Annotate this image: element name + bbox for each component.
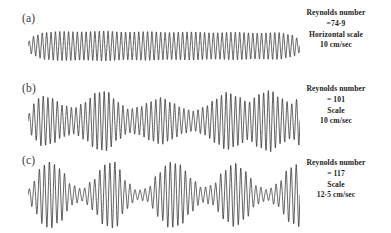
panel-b: (b) Reynolds number = 101 Scale 10 cm/se… (0, 76, 391, 154)
scale-caption-b: Scale (288, 106, 384, 117)
scale-value-c: 12·5 cm/sec (288, 190, 384, 201)
waveform-trace-a (28, 26, 300, 66)
reynolds-value-c: = 117 (288, 169, 384, 180)
panel-a: (a) Reynolds number =74·9 Horizontal sca… (0, 0, 391, 78)
reynolds-caption-b: Reynolds number (288, 84, 384, 95)
waveform-trace-c (28, 162, 300, 228)
reynolds-caption-c: Reynolds number (288, 158, 384, 169)
annotation-a: Reynolds number =74·9 Horizontal scale 1… (288, 8, 384, 51)
annotation-c: Reynolds number = 117 Scale 12·5 cm/sec (288, 158, 384, 201)
scale-caption-a: Horizontal scale (288, 30, 384, 41)
reynolds-caption-a: Reynolds number (288, 8, 384, 19)
panel-c: (c) Reynolds number = 117 Scale 12·5 cm/… (0, 150, 391, 233)
annotation-b: Reynolds number = 101 Scale 10 cm/sec (288, 84, 384, 127)
figure-root: (a) Reynolds number =74·9 Horizontal sca… (0, 0, 391, 233)
waveform-trace-b (28, 90, 300, 152)
panel-label-a: (a) (22, 12, 35, 24)
scale-caption-c: Scale (288, 180, 384, 191)
scale-value-a: 10 cm/sec (288, 40, 384, 51)
reynolds-value-a: =74·9 (288, 19, 384, 30)
reynolds-value-b: = 101 (288, 95, 384, 106)
scale-value-b: 10 cm/sec (288, 116, 384, 127)
